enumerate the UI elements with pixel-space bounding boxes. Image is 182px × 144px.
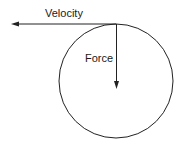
force-label: Force [85,52,113,64]
velocity-label: Velocity [45,7,83,19]
force-arrowhead-icon [114,81,119,89]
velocity-arrowhead-icon [11,22,19,27]
circular-motion-diagram: Velocity Force [0,0,182,144]
